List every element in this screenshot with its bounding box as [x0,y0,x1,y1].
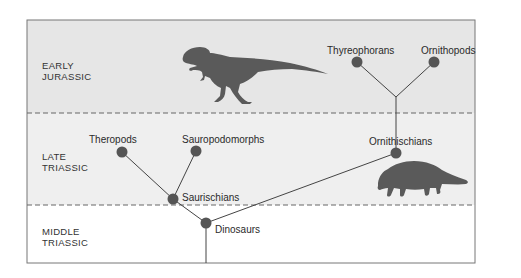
period-label-middle-triassic: MIDDLE TRIASSIC [42,226,88,248]
label-ornithischians: Ornithischians [369,136,432,147]
phylogeny-diagram: EARLY JURASSIC LATE TRIASSIC MIDDLE TRIA… [0,0,521,278]
label-thyreophorans: Thyreophorans [327,45,394,56]
label-ornithopods: Ornithopods [421,45,475,56]
node-dinosaurs [201,218,212,229]
node-ornithopods [429,57,440,68]
period-label-early-jurassic: EARLY JURASSIC [42,60,91,82]
node-ornithischians [391,148,402,159]
label-sauropodomorphs: Sauropodomorphs [182,134,264,145]
period-label-late-triassic: LATE TRIASSIC [42,151,88,173]
label-theropods: Theropods [89,134,137,145]
node-theropods [117,147,128,158]
label-dinosaurs: Dinosaurs [215,224,260,235]
band-late-triassic [27,113,475,205]
label-saurischians: Saurischians [182,192,239,203]
node-saurischians [168,194,179,205]
node-thyreophorans [352,57,363,68]
node-sauropodomorphs [191,146,202,157]
